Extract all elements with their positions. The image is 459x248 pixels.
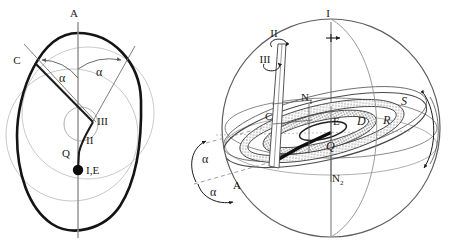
label-point-ii: II xyxy=(86,134,94,146)
label-point-c: C xyxy=(13,54,20,66)
label-point-c-right: C xyxy=(265,110,272,122)
label-point-e: E xyxy=(333,115,340,127)
figure-canvas: A C α α III II Q I,E xyxy=(0,0,459,248)
label-point-q: Q xyxy=(62,147,70,159)
label-angle-left: α xyxy=(59,71,66,85)
focus-dot-ie xyxy=(73,165,83,175)
label-point-q-right: Q xyxy=(326,139,335,153)
scientific-figure: A C α α III II Q I,E xyxy=(0,0,459,248)
label-point-r: R xyxy=(382,113,391,127)
label-point-s: S xyxy=(401,94,407,108)
label-point-iii: III xyxy=(97,115,108,127)
label-point-ie: I,E xyxy=(86,164,99,176)
label-angle-right: α xyxy=(96,65,103,79)
label-apex-a: A xyxy=(70,7,78,19)
label-axis-i: I xyxy=(326,7,330,19)
label-point-d: D xyxy=(356,114,366,128)
label-point-a-right: A xyxy=(233,179,241,191)
label-angle-alpha-lower: α xyxy=(210,185,217,199)
label-axis-iii: III xyxy=(260,53,271,65)
label-axis-ii: II xyxy=(270,27,278,39)
label-angle-alpha-upper: α xyxy=(202,152,209,166)
